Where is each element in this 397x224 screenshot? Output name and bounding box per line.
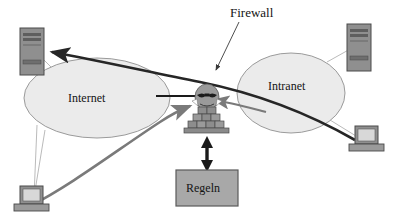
intranet-label: Intranet — [268, 80, 305, 92]
intranet-cloud — [237, 53, 345, 133]
firewall-device-icon — [184, 84, 229, 133]
server-top-left-icon — [20, 28, 44, 75]
leader-firewall-label — [216, 22, 239, 70]
server-top-right-icon — [347, 24, 371, 71]
diagram-canvas: Firewall Internet Intranet Regeln — [0, 0, 397, 224]
firewall-label: Firewall — [230, 6, 273, 19]
internet-label: Internet — [68, 92, 105, 104]
edge-rules-link — [201, 136, 213, 172]
rules-box-label: Regeln — [186, 182, 220, 194]
